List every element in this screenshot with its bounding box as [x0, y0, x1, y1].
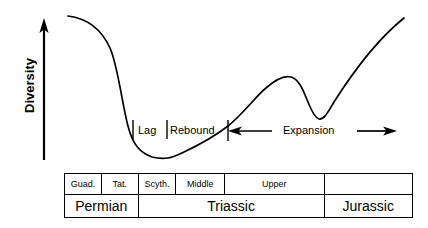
- y-axis-arrow: [39, 18, 48, 160]
- stage-cell-tatarian: Tat.: [102, 174, 139, 194]
- stage-cell-empty: [325, 174, 412, 194]
- diversity-through-time-figure: Diversity Lag Rebound Expansion Guad.: [0, 0, 428, 228]
- diversity-curve: [68, 16, 404, 158]
- interval-label-rebound: Rebound: [170, 125, 215, 136]
- stage-cell-scythian: Scyth.: [139, 174, 177, 194]
- stage-cell-upper: Upper: [225, 174, 324, 194]
- expansion-right-arrow: [357, 126, 397, 135]
- stage-cell-guadalupian: Guad.: [65, 174, 102, 194]
- system-cell-jurassic: Jurassic: [325, 195, 413, 217]
- system-row: Permian Triassic Jurassic: [65, 195, 412, 217]
- system-cell-triassic: Triassic: [139, 195, 325, 217]
- expansion-left-arrow: [228, 126, 272, 135]
- interval-label-expansion: Expansion: [283, 125, 334, 136]
- stratigraphic-table: Guad. Tat. Scyth. Middle Upper Permian T…: [64, 173, 413, 218]
- system-cell-permian: Permian: [65, 195, 139, 217]
- interval-label-lag: Lag: [138, 125, 156, 136]
- stage-row: Guad. Tat. Scyth. Middle Upper: [65, 174, 412, 195]
- stage-cell-middle: Middle: [176, 174, 225, 194]
